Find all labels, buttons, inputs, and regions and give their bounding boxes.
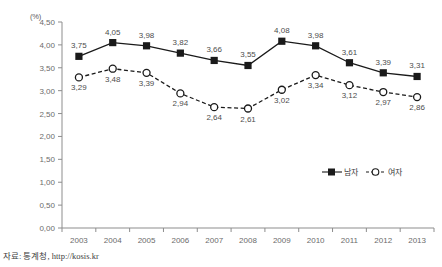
chart-legend: 남자 여자: [322, 166, 402, 177]
chart-figure: (%) 3,754,053,983,823,663,554,083,983,61…: [0, 0, 442, 267]
y-tick-label: 0,00: [39, 224, 55, 233]
data-point-marker: [244, 62, 251, 69]
data-point-marker: [75, 74, 82, 81]
y-tick-label: 2,50: [39, 110, 55, 119]
data-point-label: 2,86: [409, 103, 425, 112]
x-tick-label: 2005: [138, 236, 156, 245]
data-point-label: 3,61: [342, 48, 358, 57]
x-tick-label: 2010: [307, 236, 325, 245]
data-point-marker: [380, 89, 387, 96]
data-point-label: 3,31: [409, 61, 425, 70]
data-point-label: 2,97: [375, 98, 391, 107]
data-point-label: 3,48: [105, 75, 121, 84]
y-tick-label: 0,50: [39, 201, 55, 210]
x-tick-label: 2007: [205, 236, 223, 245]
line-chart-plot: 3,754,053,983,823,663,554,083,983,613,39…: [0, 0, 442, 267]
data-point-label: 3,34: [308, 81, 324, 90]
x-tick-label: 2004: [104, 236, 122, 245]
y-tick-label: 3,00: [39, 87, 55, 96]
legend-marker-open-circle-icon: [366, 167, 386, 177]
data-point-label: 3,02: [274, 96, 290, 105]
data-point-marker: [143, 69, 150, 76]
data-point-label: 3,29: [71, 83, 87, 92]
data-point-marker: [75, 53, 82, 60]
data-point-marker: [177, 90, 184, 97]
y-tick-label: 3,50: [39, 64, 55, 73]
data-point-marker: [346, 59, 353, 66]
data-point-marker: [413, 73, 420, 80]
data-point-label: 3,75: [71, 41, 87, 50]
data-point-marker: [278, 86, 285, 93]
legend-item-male-label: 남자: [344, 166, 357, 177]
x-tick-label: 2011: [341, 236, 359, 245]
data-point-marker: [414, 94, 421, 101]
y-tick-label: 4,00: [39, 41, 55, 50]
data-point-label: 3,39: [375, 58, 391, 67]
y-tick-label: 4,50: [39, 18, 55, 27]
y-axis-tick-labels: 0,000,501,001,502,002,503,003,504,004,50: [39, 18, 55, 233]
data-point-label: 3,12: [342, 91, 358, 100]
data-point-marker: [211, 57, 218, 64]
x-tick-label: 2012: [374, 236, 392, 245]
legend-item-male[interactable]: 남자: [322, 166, 357, 177]
data-point-label: 3,98: [139, 31, 155, 40]
data-point-label: 3,39: [139, 79, 155, 88]
data-point-label: 4,08: [274, 26, 290, 35]
data-point-label: 2,61: [240, 115, 256, 124]
data-point-marker: [245, 105, 252, 112]
data-point-marker: [109, 39, 116, 46]
x-tick-label: 2013: [408, 236, 426, 245]
y-tick-label: 1,00: [39, 178, 55, 187]
legend-marker-filled-square-icon: [322, 167, 342, 177]
x-axis-tick-labels: 2003200420052006200720082009201020112012…: [70, 236, 427, 245]
data-point-label: 2,94: [173, 99, 189, 108]
x-tick-label: 2008: [239, 236, 257, 245]
x-tick-label: 2009: [273, 236, 291, 245]
x-tick-label: 2006: [171, 236, 189, 245]
source-note: 자료: 통계청, http://kosis.kr: [3, 249, 99, 261]
legend-item-female[interactable]: 여자: [366, 166, 401, 177]
data-point-marker: [380, 69, 387, 76]
data-point-label: 2,64: [206, 113, 222, 122]
data-point-label: 3,98: [308, 31, 324, 40]
data-point-marker: [143, 42, 150, 49]
y-tick-label: 2,00: [39, 132, 55, 141]
x-tick-label: 2003: [70, 236, 88, 245]
data-point-marker: [346, 82, 353, 89]
data-point-label: 4,05: [105, 28, 121, 37]
data-point-marker: [211, 104, 218, 111]
data-point-label: 3,55: [240, 50, 256, 59]
data-point-label: 3,82: [173, 38, 189, 47]
series-line-female: [79, 69, 417, 109]
data-point-marker: [177, 50, 184, 57]
data-point-marker: [312, 72, 319, 79]
data-point-label: 3,66: [206, 45, 222, 54]
data-point-marker: [312, 42, 319, 49]
data-point-marker: [109, 65, 116, 72]
chart-series-group: [75, 38, 420, 112]
y-tick-label: 1,50: [39, 155, 55, 164]
data-point-marker: [278, 38, 285, 45]
legend-item-female-label: 여자: [388, 166, 401, 177]
